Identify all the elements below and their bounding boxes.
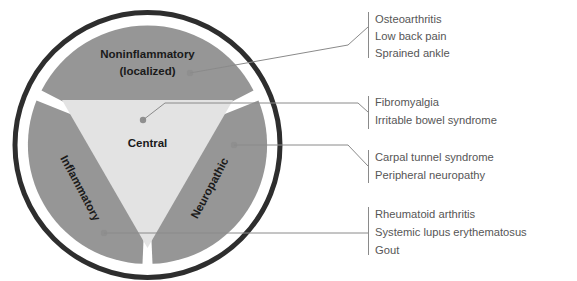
- wedge-label-noninflammatory-line1: Noninflammatory: [100, 48, 195, 60]
- pain-classification-diagram: Noninflammatory (localized) Inflammatory…: [0, 0, 577, 281]
- callout-item: Fibromyalgia: [375, 96, 440, 108]
- callout-item: Systemic lupus erythematosus: [375, 226, 527, 238]
- callout-group-noninflammatory: Osteoarthritis Low back pain Sprained an…: [375, 13, 450, 59]
- callout-item: Osteoarthritis: [375, 13, 442, 25]
- callout-item: Irritable bowel syndrome: [375, 114, 497, 126]
- center-label: Central: [128, 137, 168, 149]
- wedge-label-noninflammatory-line2: (localized): [119, 65, 175, 77]
- callout-item: Gout: [375, 244, 400, 256]
- callout-item: Peripheral neuropathy: [375, 169, 485, 181]
- callout-item: Sprained ankle: [375, 47, 450, 59]
- callout-item: Carpal tunnel syndrome: [375, 151, 494, 163]
- callout-item: Low back pain: [375, 30, 447, 42]
- callout-item: Rheumatoid arthritis: [375, 208, 476, 220]
